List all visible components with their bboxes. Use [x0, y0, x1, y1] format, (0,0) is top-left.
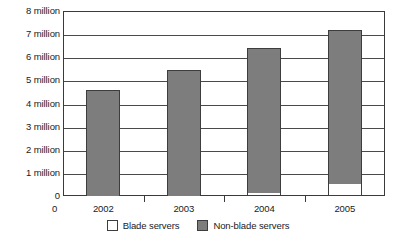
- x-axis-tick-label: 2002: [63, 203, 144, 215]
- bar-group: [328, 30, 362, 197]
- bar-chart: 8 million7 million6 million5 million4 mi…: [0, 0, 396, 240]
- bar-group: [247, 48, 281, 196]
- y-axis-tick-label: 4 million: [2, 99, 60, 109]
- bar-group: [86, 90, 120, 196]
- x-axis-labels: 2002200320042005: [63, 203, 385, 217]
- legend-label: Blade servers: [123, 220, 180, 231]
- legend-item: Blade servers: [107, 220, 180, 231]
- bar-group: [167, 70, 201, 196]
- x-axis-ticks: [63, 196, 385, 203]
- bar-segment-non-blade-servers: [167, 70, 201, 196]
- x-axis-tick-label: 2004: [224, 203, 305, 215]
- x-axis-tick: [305, 196, 306, 202]
- y-axis-labels: 8 million7 million6 million5 million4 mi…: [0, 0, 60, 207]
- x-axis-tick: [144, 196, 145, 202]
- y-axis-tick-label: 6 million: [2, 52, 60, 62]
- y-axis-tick-label: 5 million: [2, 75, 60, 85]
- bar-segment-blade-servers: [328, 184, 362, 196]
- bar-segment-non-blade-servers: [247, 48, 281, 193]
- chart-legend: Blade serversNon-blade servers: [0, 220, 396, 231]
- x-axis-tick-label: 2005: [305, 203, 386, 215]
- y-axis-tick-label: 7 million: [2, 29, 60, 39]
- y-axis-tick-label: 0: [2, 191, 60, 201]
- x-axis-origin-label: 0: [52, 203, 57, 215]
- x-axis-tick-label: 2003: [144, 203, 225, 215]
- y-axis-tick-label: 8 million: [2, 6, 60, 16]
- white-square-swatch: [107, 220, 118, 231]
- x-axis-tick: [224, 196, 225, 202]
- y-axis-tick-label: 2 million: [2, 145, 60, 155]
- y-axis-tick-label: 1 million: [2, 168, 60, 178]
- legend-label: Non-blade servers: [213, 220, 289, 231]
- bar-segment-non-blade-servers: [328, 30, 362, 185]
- bars-layer: [63, 11, 385, 196]
- legend-item: Non-blade servers: [197, 220, 289, 231]
- bar-segment-non-blade-servers: [86, 90, 120, 196]
- gray-square-swatch: [197, 220, 208, 231]
- y-axis-tick-label: 3 million: [2, 122, 60, 132]
